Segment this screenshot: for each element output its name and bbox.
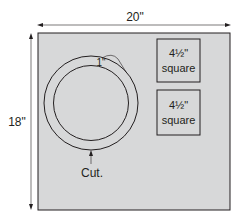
cut-label: Cut. (78, 167, 106, 179)
square-1-name-label: square (157, 63, 200, 74)
width-label: 20" (120, 11, 150, 23)
height-dimension-arrow (29, 33, 33, 210)
square-2-size-label: 4½" (157, 100, 200, 111)
square-2-name-label: square (157, 115, 200, 126)
ring-width-label: 1" (94, 58, 108, 68)
cutting-diagram (0, 0, 244, 221)
square-1-size-label: 4½" (157, 48, 200, 59)
height-label: 18" (6, 116, 28, 128)
